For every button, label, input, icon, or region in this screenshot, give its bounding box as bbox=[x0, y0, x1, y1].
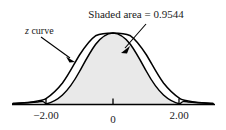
tick-label-zero: 0 bbox=[110, 113, 116, 125]
tick-label-positive-two: 2.00 bbox=[169, 109, 189, 121]
z-curve-arrow-head bbox=[66, 57, 75, 63]
z-curve-label: z curve bbox=[24, 25, 54, 36]
shaded-area-arrow-line bbox=[125, 24, 146, 48]
shaded-area-region bbox=[46, 33, 180, 104]
normal-distribution-figure: Shaded area = 0.9544 z curve −2.00 0 2.0… bbox=[0, 0, 226, 130]
z-curve-arrow-line bbox=[41, 37, 70, 58]
tick-label-negative-two: −2.00 bbox=[33, 109, 59, 121]
shaded-area-label: Shaded area = 0.9544 bbox=[88, 8, 184, 20]
z-curve-label-word: curve bbox=[29, 25, 54, 36]
